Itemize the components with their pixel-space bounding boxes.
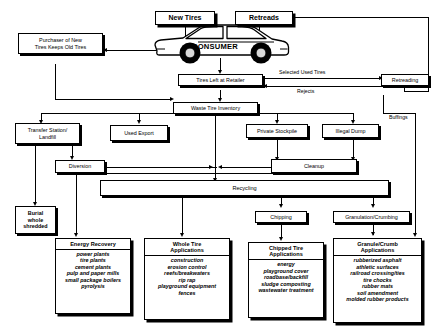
node-burial-line1: Burial [28, 210, 43, 217]
flowchart-canvas: New Tires Retreads CONSUMER Purchaser of… [0, 0, 439, 335]
appbox-chipped-tire-heading: Chipped Tire Applications [249, 243, 323, 260]
node-used-export-label: Used Export [124, 130, 154, 137]
edge-stockpile-to-cleanup [277, 139, 278, 159]
edge-retreads-right [295, 17, 428, 18]
node-burial-line2: whole [28, 217, 43, 224]
edge-diversion-rail [76, 173, 316, 174]
arrowhead-rejects [263, 84, 267, 88]
arrowhead-wti-left [170, 97, 174, 101]
edge-wti-to-recycling [215, 110, 216, 180]
node-waste-tire-inventory-label: Waste Tire Inventory [191, 105, 240, 112]
edge-purchaser-to-wti [55, 99, 172, 100]
appbox-whole-tire-heading-line2: Applications [146, 247, 228, 254]
node-granulation-crumbing[interactable]: Granulation/Crumbing [333, 211, 410, 223]
node-used-export[interactable]: Used Export [110, 125, 168, 141]
node-burial-line3: shredded [23, 223, 47, 230]
list-item: pulp and paper mills [57, 270, 129, 277]
node-retreading-label: Retreading [392, 77, 418, 84]
node-recycling-label: Recycling [232, 185, 256, 192]
appbox-granule-crumb-heading: Granule/Crumb Applications [334, 239, 421, 256]
appbox-granule-crumb-items: rubberized asphalt athletic surfaces rai… [334, 256, 421, 322]
appbox-whole-tire-applications[interactable]: Whole Tire Applications construction ero… [144, 238, 230, 320]
edge-buffings-riser [383, 95, 384, 113]
edge-purchaser-down [55, 64, 56, 99]
arrowhead-whole-tire [180, 233, 184, 237]
arrowhead-buffings [413, 233, 417, 237]
list-item: pyrolysis [57, 283, 129, 290]
appbox-whole-tire-items: construction erosion control reefs/break… [145, 256, 229, 319]
node-illegal-dump[interactable]: Illegal Dump [322, 124, 379, 138]
node-retreads[interactable]: Retreads [235, 11, 293, 25]
appbox-whole-tire-heading-line1: Whole Tire [146, 241, 228, 248]
node-recycling[interactable]: Recycling [100, 180, 389, 196]
appbox-chipped-tire-items: energy playground cover roadbase/backfil… [249, 260, 323, 317]
node-transfer-station-landfill[interactable]: Transfer Station/ Landfill [15, 123, 80, 144]
node-new-tires-label: New Tires [169, 15, 202, 22]
edge-buffings-down [415, 113, 416, 235]
node-diversion-label: Diversion [69, 163, 91, 170]
node-burial[interactable]: Burial whole shredded [15, 206, 56, 234]
edge-label-rejects: Rejects [297, 88, 314, 94]
node-purchaser-line2: Tires Keeps Old Tires [35, 44, 87, 51]
node-transfer-station-line2: Landfill [39, 134, 56, 141]
edge-cleanup-to-bus [222, 167, 271, 168]
edge-retreads-into-retreading [404, 91, 429, 92]
edge-rejects [267, 86, 383, 87]
node-retreading[interactable]: Retreading [381, 74, 429, 86]
appbox-granule-crumb-heading-line2: Applications [335, 247, 420, 254]
arrowhead-granule-apps [371, 232, 375, 236]
node-purchaser-of-new-tires[interactable]: Purchaser of New Tires Keeps Old Tires [18, 33, 103, 54]
edge-recycling-to-whole-tire [182, 196, 183, 235]
list-item: fences [146, 290, 228, 297]
appbox-energy-recovery[interactable]: Energy Recovery power plants tire plants… [55, 238, 131, 314]
node-tires-left-at-retailer[interactable]: Tires Left at Retailer [178, 74, 263, 86]
node-retreads-label: Retreads [249, 15, 279, 22]
node-granulation-crumbing-label: Granulation/Crumbing [345, 214, 398, 221]
arrowhead-chipping [279, 204, 283, 208]
list-item: molded rubber products [335, 296, 420, 303]
appbox-whole-tire-heading: Whole Tire Applications [145, 239, 229, 256]
appbox-chipped-tire-heading-line1: Chipped Tire [250, 245, 322, 252]
appbox-energy-recovery-items: power plants tire plants cement plants p… [56, 250, 130, 313]
arrowhead-bus-from-diversion [209, 165, 213, 169]
node-tires-left-at-retailer-label: Tires Left at Retailer [196, 77, 244, 84]
edge-selected-used-tires [265, 78, 381, 79]
edge-diversion-down [76, 173, 77, 235]
node-chipping[interactable]: Chipping [255, 211, 307, 223]
edge-diversion-to-bus [107, 167, 217, 168]
appbox-energy-recovery-heading: Energy Recovery [56, 239, 130, 250]
node-waste-tire-inventory[interactable]: Waste Tire Inventory [173, 102, 258, 114]
node-private-stockpile-label: Private Stockpile [257, 128, 297, 135]
list-item: wastewater treatment [250, 287, 322, 294]
arrowhead-purchaser [103, 48, 107, 52]
edge-label-buffings: Buffings [389, 114, 408, 120]
node-new-tires[interactable]: New Tires [155, 11, 215, 25]
arrowhead-energy-recovery [74, 233, 78, 237]
node-illegal-dump-label: Illegal Dump [336, 128, 366, 135]
edge-transfer-to-burial [35, 144, 36, 204]
edge-label-selected-used-tires: Selected Used Tires [279, 69, 325, 75]
arrowhead-bus-from-cleanup [218, 165, 222, 169]
node-chipping-label: Chipping [270, 214, 291, 221]
arrowhead-used-export [137, 120, 141, 124]
edge-dump-to-cleanup [353, 139, 354, 159]
arrowhead-chipped-apps [279, 237, 283, 241]
node-consumer-label: CONSUMER [192, 42, 238, 51]
node-private-stockpile[interactable]: Private Stockpile [246, 124, 308, 138]
appbox-chipped-tire-heading-line2: Applications [250, 251, 322, 258]
node-transfer-station-line1: Transfer Station/ [28, 127, 68, 134]
node-cleanup[interactable]: Cleanup [271, 159, 357, 173]
node-diversion[interactable]: Diversion [55, 160, 105, 173]
node-purchaser-line1: Purchaser of New [39, 37, 82, 44]
list-item: playground equipment [146, 283, 228, 290]
appbox-granule-crumb-heading-line1: Granule/Crumb [335, 241, 420, 248]
appbox-granule-crumb-applications[interactable]: Granule/Crumb Applications rubberized as… [333, 238, 422, 323]
appbox-chipped-tire-applications[interactable]: Chipped Tire Applications energy playgro… [248, 242, 324, 318]
arrowhead-granulation [371, 204, 375, 208]
node-cleanup-label: Cleanup [304, 163, 324, 170]
